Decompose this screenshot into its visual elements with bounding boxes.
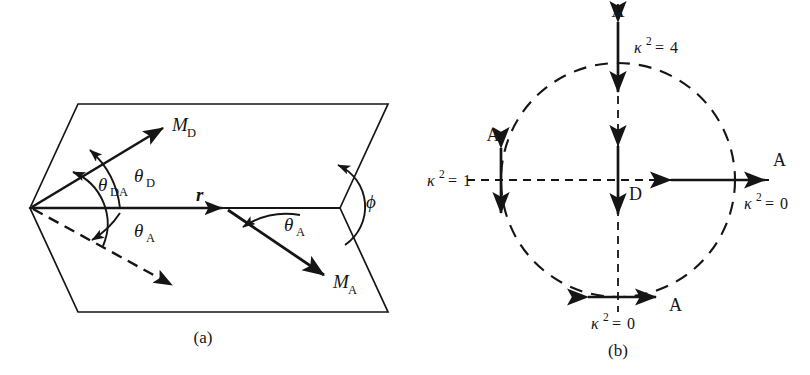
theta-da-subscript: DA xyxy=(110,185,128,199)
panel-a: M D M A r θ DA θ D θ A θ A ϕ xyxy=(0,0,405,375)
acceptor-label-left: A xyxy=(487,125,500,145)
acceptor-label-bottom: A xyxy=(669,295,682,315)
kappa-exponent-bottom: 2 xyxy=(603,311,609,323)
kappa-label-left: κ 2 = 1 xyxy=(427,168,471,189)
kappa-label-right: κ 2 = 0 xyxy=(744,191,788,212)
m-a-label-subscript: A xyxy=(348,283,357,297)
theta-a-symbol: θ xyxy=(134,220,143,241)
r-label: r xyxy=(196,184,204,205)
phi-label: ϕ xyxy=(366,191,376,212)
theta-d-subscript: D xyxy=(146,176,155,190)
kappa-equals-left: = xyxy=(448,172,457,189)
kappa-symbol-top: κ xyxy=(634,39,642,56)
theta-d-symbol: θ xyxy=(134,165,143,186)
donor-label: D xyxy=(629,184,642,204)
panel-b-caption: (b) xyxy=(608,341,628,360)
panel-b: D A κ 2 = 4 A κ 2 = 0 A κ 2 = 0 A κ 2 xyxy=(405,0,810,375)
m-d-label-subscript: D xyxy=(187,126,196,140)
acceptor-label-top: A xyxy=(612,1,625,21)
kappa-value-top: 4 xyxy=(670,39,678,56)
kappa-label-bottom: κ 2 = 0 xyxy=(591,311,635,332)
upper-plane-outline xyxy=(30,104,388,208)
kappa-equals-bottom: = xyxy=(612,315,621,332)
kappa-equals-top: = xyxy=(655,39,664,56)
figure-root: M D M A r θ DA θ D θ A θ A ϕ xyxy=(0,0,810,375)
acceptor-label-right: A xyxy=(773,150,786,170)
upper-plane xyxy=(30,104,388,208)
kappa-value-bottom: 0 xyxy=(627,315,635,332)
theta-a-right-symbol: θ xyxy=(284,214,293,235)
panel-a-caption: (a) xyxy=(194,328,213,347)
kappa-label-top: κ 2 = 4 xyxy=(634,35,678,56)
kappa-exponent-left: 2 xyxy=(439,168,445,180)
kappa-equals-right: = xyxy=(765,195,774,212)
kappa-symbol-left: κ xyxy=(427,172,435,189)
kappa-exponent-top: 2 xyxy=(646,35,652,47)
kappa-symbol-right: κ xyxy=(744,195,752,212)
theta-a-subscript: A xyxy=(146,231,155,245)
kappa-value-right: 0 xyxy=(780,195,788,212)
kappa-symbol-bottom: κ xyxy=(591,315,599,332)
lower-plane-outline xyxy=(30,208,388,312)
theta-a-right-subscript: A xyxy=(296,225,305,239)
kappa-value-left: 1 xyxy=(463,172,471,189)
lower-plane xyxy=(30,208,388,312)
theta-da-symbol: θ xyxy=(98,174,107,195)
kappa-exponent-right: 2 xyxy=(756,191,762,203)
